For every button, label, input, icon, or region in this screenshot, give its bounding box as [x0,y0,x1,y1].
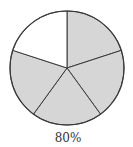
percent-caption: 80% [0,131,133,145]
pie-chart [0,0,133,130]
